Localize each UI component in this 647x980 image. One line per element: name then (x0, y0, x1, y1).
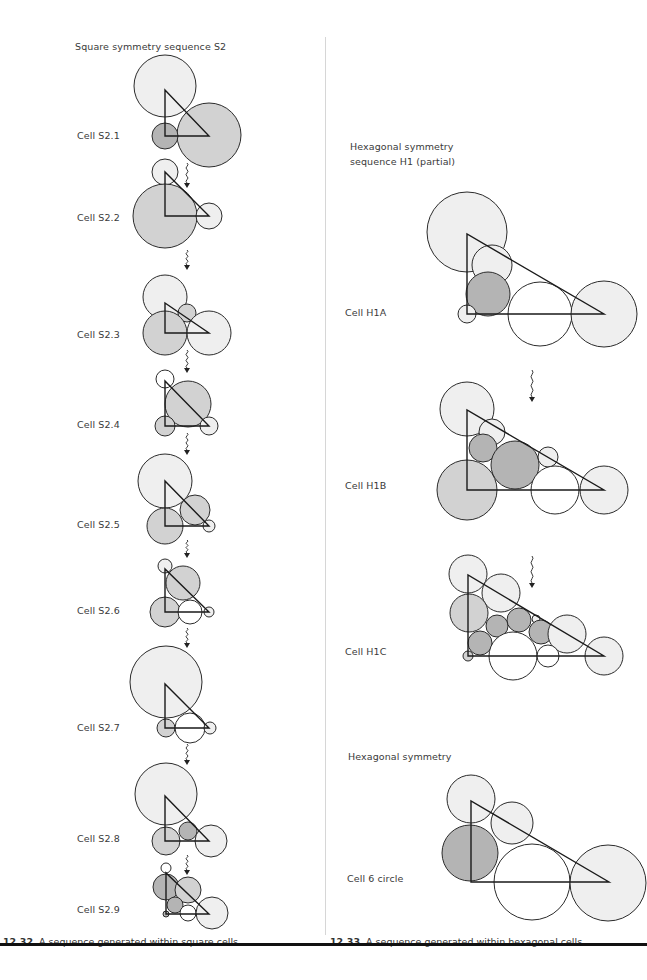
cell-h1b-diagram (437, 382, 628, 520)
circle-dark (507, 608, 531, 632)
circle-light (570, 845, 646, 921)
right-section2-title: Hexagonal symmetry (348, 751, 452, 762)
cell-label-h1b: Cell H1B (345, 480, 386, 491)
cell-label-s2-3: Cell S2.3 (77, 329, 120, 340)
cell-s2-3-diagram (143, 275, 231, 355)
cell-s2-4-diagram (155, 370, 218, 436)
cell-label-6-circle: Cell 6 circle (347, 873, 403, 884)
cell-s2-7-diagram (130, 646, 216, 743)
cell-label-s2-2: Cell S2.2 (77, 212, 120, 223)
cell-s2-1-diagram (134, 55, 241, 167)
cell-s2-5-diagram (138, 454, 215, 544)
squiggle-arrow-icon (529, 556, 535, 588)
circle-mid (166, 566, 200, 600)
squiggle-arrow-icon (184, 163, 190, 188)
bottom-rule (0, 943, 647, 946)
left-panel-title: Square symmetry sequence S2 (75, 41, 226, 52)
squiggle-arrow-icon (529, 370, 535, 402)
cell-label-s2-7: Cell S2.7 (77, 722, 120, 733)
cell-label-h1a: Cell H1A (345, 307, 386, 318)
squiggle-arrow-icon (184, 350, 190, 373)
cell-label-s2-8: Cell S2.8 (77, 833, 120, 844)
circle-dark (442, 825, 498, 881)
circle-white (161, 863, 171, 873)
cell-s2-2-diagram (133, 159, 222, 248)
cell-label-s2-4: Cell S2.4 (77, 419, 120, 430)
cell-label-s2-6: Cell S2.6 (77, 605, 120, 616)
circle-mid (450, 594, 488, 632)
cell-s2-8-diagram (135, 763, 227, 857)
circle-light (482, 574, 520, 612)
squiggle-arrow-icon (184, 628, 190, 648)
circle-light (491, 802, 533, 844)
circle-dark (179, 822, 197, 840)
squiggle-arrow-icon (184, 540, 190, 558)
cell-label-h1c: Cell H1C (345, 646, 386, 657)
right-panel-title-line1: Hexagonal symmetry (350, 141, 454, 152)
squiggle-arrow-icon (184, 744, 190, 765)
circle-light (135, 763, 197, 825)
cell-6-circle-diagram (442, 775, 646, 921)
circle-light (130, 646, 202, 718)
cell-s2-9-diagram (153, 863, 228, 929)
circle-mid (180, 495, 210, 525)
circle-white (180, 905, 196, 921)
cell-label-s2-1: Cell S2.1 (77, 130, 120, 141)
squiggle-arrow-icon (184, 855, 190, 875)
cell-label-s2-5: Cell S2.5 (77, 519, 120, 530)
circle-dark (468, 631, 492, 655)
circle-light (196, 897, 228, 929)
cell-h1a-diagram (427, 192, 637, 347)
right-panel-title-line2: sequence H1 (partial) (350, 156, 455, 167)
cell-s2-6-diagram (150, 559, 214, 627)
cell-label-s2-9: Cell S2.9 (77, 904, 120, 915)
squiggle-arrow-icon (184, 250, 190, 270)
cell-h1c-diagram (449, 555, 623, 680)
squiggle-arrow-icon (184, 433, 190, 455)
